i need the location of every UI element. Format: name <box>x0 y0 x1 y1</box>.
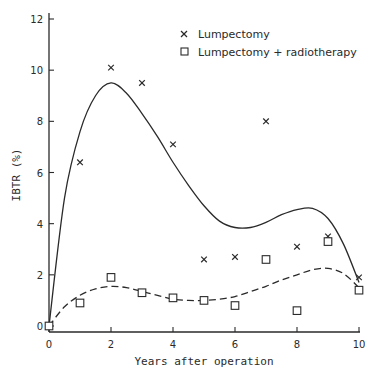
square-marker-icon <box>45 322 53 330</box>
square-marker-icon <box>76 299 84 307</box>
square-marker-icon <box>262 256 270 264</box>
x-tick-label: 6 <box>232 339 238 350</box>
x-marker-icon <box>139 80 145 86</box>
x-marker-icon <box>201 257 207 263</box>
x-marker-icon <box>77 159 83 165</box>
square-marker-icon <box>169 294 177 302</box>
legend-label: Lumpectomy <box>198 28 270 41</box>
x-tick-label: 4 <box>170 339 176 350</box>
y-tick-label: 12 <box>30 14 43 25</box>
fit-curves <box>49 83 359 326</box>
square-marker-icon <box>355 286 363 294</box>
square-marker-icon <box>200 297 208 305</box>
y-axis-label: IBTR (%) <box>10 149 23 202</box>
chart: 0246810120246810 Lumpectomy Lumpectomy +… <box>0 0 376 376</box>
square-marker-icon <box>231 302 239 310</box>
y-tick-label: 8 <box>37 116 43 127</box>
y-tick-label: 4 <box>37 219 43 230</box>
square-marker-icon <box>181 48 188 55</box>
legend-item-lumpectomy-radiotherapy: Lumpectomy + radiotherapy <box>181 46 357 59</box>
x-marker-icon <box>294 244 300 250</box>
legend-label: Lumpectomy + radiotherapy <box>198 46 357 59</box>
square-marker-icon <box>293 307 301 315</box>
x-tick-label: 10 <box>353 339 366 350</box>
square-marker-icon <box>138 289 146 297</box>
x-marker-icon <box>108 65 114 71</box>
square-marker-icon <box>324 238 332 246</box>
legend-item-lumpectomy: Lumpectomy <box>181 28 270 41</box>
x-axis-label: Years after operation <box>134 355 273 368</box>
x-marker-icon <box>263 119 269 125</box>
x-tick-label: 8 <box>294 339 300 350</box>
y-tick-label: 0 <box>37 321 43 332</box>
x-marker-icon <box>170 142 176 148</box>
y-tick-label: 6 <box>37 168 43 179</box>
x-tick-label: 2 <box>108 339 114 350</box>
legend: Lumpectomy Lumpectomy + radiotherapy <box>181 28 357 59</box>
square-marker-icon <box>107 274 115 282</box>
y-tick-label: 10 <box>30 65 43 76</box>
x-marker-icon <box>232 254 238 260</box>
y-tick-label: 2 <box>37 270 43 281</box>
x-marker-icon <box>181 31 187 37</box>
x-tick-label: 0 <box>46 339 52 350</box>
